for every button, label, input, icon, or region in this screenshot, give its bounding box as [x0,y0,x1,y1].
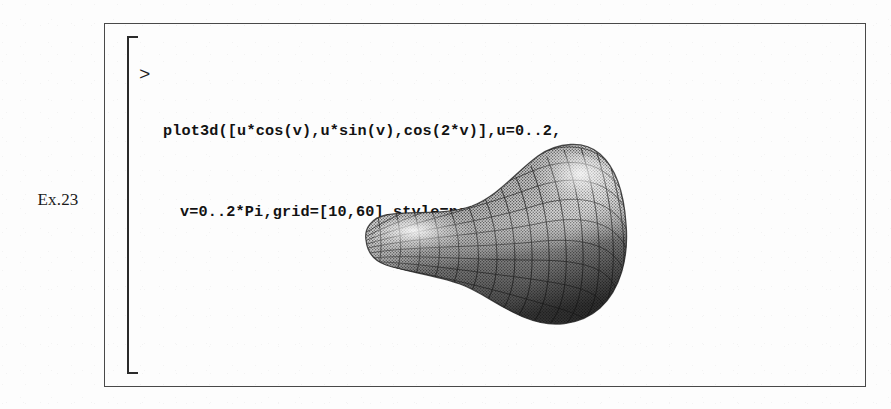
bracket-vertical-bar [127,36,129,374]
prompt-chevron-icon: > [139,66,150,85]
surface-plot-graphic [348,132,648,332]
bracket-bottom-tip [127,372,138,374]
plot3d-output[interactable] [348,132,648,332]
execution-group-bracket-icon [121,36,138,374]
scanned-page: Ex.23 > plot3d([u*cos(v),u*sin(v),cos(2*… [0,0,891,409]
exercise-label: Ex.23 [16,190,100,210]
worksheet-frame: > plot3d([u*cos(v),u*sin(v),cos(2*v)],u=… [104,23,866,387]
surface-body [348,132,648,332]
